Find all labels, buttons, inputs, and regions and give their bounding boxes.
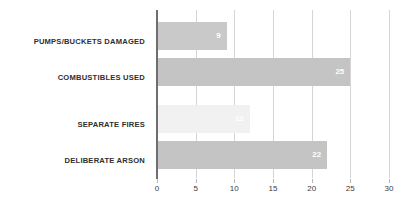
bar-chart: PUMPS/BUCKETS DAMAGED COMBUSTIBLES USED …	[0, 0, 403, 209]
bar-value-label: 25	[335, 68, 344, 76]
bar-value-label: 22	[312, 151, 321, 159]
bar-deliberate-arson[interactable]: 22	[157, 141, 327, 169]
tick-mark-20	[312, 179, 313, 183]
tick-mark-5	[196, 179, 197, 183]
value-axis-ticks: 0 5 10 15 20 25 30	[157, 179, 389, 209]
tick-label-15: 15	[269, 185, 278, 193]
tick-mark-30	[389, 179, 390, 183]
gridline-30	[389, 10, 390, 178]
tick-mark-10	[234, 179, 235, 183]
category-label-deliberate-arson: DELIBERATE ARSON	[0, 157, 145, 165]
gridline-25	[350, 10, 351, 178]
tick-mark-25	[350, 179, 351, 183]
tick-label-20: 20	[307, 185, 316, 193]
value-axis-spine	[156, 10, 158, 179]
tick-mark-0	[157, 179, 158, 183]
tick-label-30: 30	[385, 185, 394, 193]
category-axis-labels: PUMPS/BUCKETS DAMAGED COMBUSTIBLES USED …	[0, 10, 150, 178]
category-label-pumps-buckets-damaged: PUMPS/BUCKETS DAMAGED	[0, 38, 145, 46]
category-label-combustibles-used: COMBUSTIBLES USED	[0, 74, 145, 82]
bar-separate-fires[interactable]: 12	[157, 105, 250, 133]
category-label-separate-fires: SEPARATE FIRES	[0, 121, 145, 129]
tick-label-25: 25	[346, 185, 355, 193]
bar-pumps-buckets-damaged[interactable]: 9	[157, 22, 227, 50]
bar-value-label: 9	[216, 32, 220, 40]
plot-area: 9 25 12 22	[157, 10, 389, 178]
tick-label-10: 10	[230, 185, 239, 193]
tick-label-0: 0	[155, 185, 159, 193]
tick-mark-15	[273, 179, 274, 183]
tick-label-5: 5	[193, 185, 197, 193]
bar-combustibles-used[interactable]: 25	[157, 58, 350, 86]
bar-value-label: 12	[235, 115, 244, 123]
